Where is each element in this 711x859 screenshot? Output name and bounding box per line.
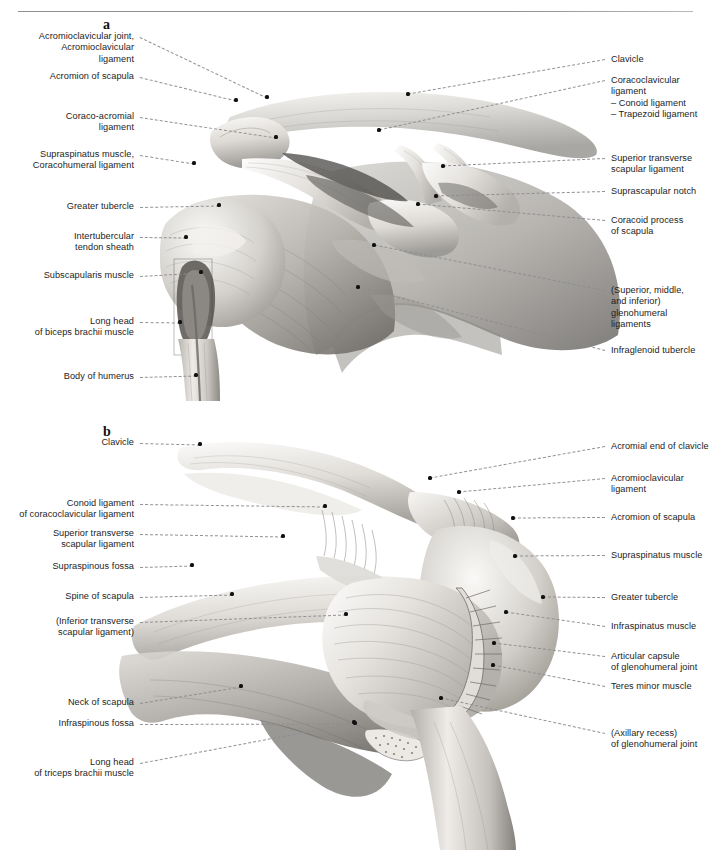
- leader-supraspinatus-muscle-b: [515, 555, 605, 557]
- label-neck-of-scapula: Neck of scapula: [48, 697, 134, 708]
- label-glenohumeral-ligaments: (Superior, middle, and inferior) glenohu…: [611, 285, 709, 331]
- label-long-head-of-biceps-brachii-muscle: Long head of biceps brachii muscle: [18, 316, 134, 339]
- label-superior-transverse-scapular-ligament: Superior transverse scapular ligament: [611, 153, 709, 176]
- leader-suprascapular-notch-anchor-dot: [434, 194, 437, 197]
- leader-greater-tubercle-b: [543, 596, 605, 597]
- leader-infraglenoid-tubercle-anchor-dot: [356, 285, 359, 288]
- label-greater-tubercle-b: Greater tubercle: [611, 592, 709, 603]
- leader-acromion-of-scapula-b-anchor-dot: [511, 516, 514, 519]
- label-acromioclavicular-joint-ligament: Acromioclavicular joint, Acromioclavicul…: [18, 31, 134, 65]
- label-intertubercular-tendon-sheath: Intertubercular tendon sheath: [44, 231, 134, 254]
- label-clavicle: Clavicle: [611, 54, 709, 65]
- label-axillary-recess-of-glenohumeral-joint: (Axillary recess) of glenohumeral joint: [611, 728, 709, 751]
- leader-clavicle-b-anchor-dot: [198, 442, 201, 445]
- leader-inferior-transverse-scapular-ligament-anchor-dot: [344, 612, 347, 615]
- leader-greater-tubercle-b-anchor-dot: [541, 595, 544, 598]
- leader-spine-of-scapula-anchor-dot: [230, 592, 233, 595]
- label-spine-of-scapula: Spine of scapula: [48, 591, 134, 602]
- label-coraco-acromial-ligament: Coraco-acromial ligament: [40, 111, 134, 134]
- label-supraspinatus-muscle-coracohumeral-ligament: Supraspinatus muscle, Coracohumeral liga…: [18, 149, 134, 172]
- leader-conoid-ligament-of-coracoclavicular-ligament-anchor-dot: [323, 504, 326, 507]
- leader-acromioclavicular-joint-ligament-anchor-dot: [265, 95, 268, 98]
- label-acromial-end-of-clavicle: Acromial end of clavicle: [611, 441, 709, 452]
- leader-infraspinatus-muscle-anchor-dot: [504, 610, 507, 613]
- leader-acromioclavicular-ligament-b-anchor-dot: [457, 490, 460, 493]
- leader-greater-tubercle-anchor-dot: [217, 203, 220, 206]
- panel-b-illustration: [110, 430, 610, 850]
- label-clavicle-b: Clavicle: [46, 437, 134, 448]
- label-acromioclavicular-ligament-b: Acromioclavicular ligament: [611, 473, 709, 496]
- leader-superior-transverse-scapular-ligament-b-anchor-dot: [281, 534, 284, 537]
- panel-a-illustration: [70, 55, 630, 405]
- label-subscapularis-muscle: Subscapularis muscle: [30, 270, 134, 281]
- leader-subscapularis-muscle-anchor-dot: [199, 270, 202, 273]
- leader-acromial-end-of-clavicle-anchor-dot: [428, 476, 431, 479]
- leader-supraspinatus-muscle-b-anchor-dot: [513, 554, 516, 557]
- leader-acromion-of-scapula-anchor-dot: [234, 98, 237, 101]
- label-acromion-of-scapula: Acromion of scapula: [32, 71, 134, 82]
- label-long-head-of-triceps-brachii-muscle: Long head of triceps brachii muscle: [14, 757, 134, 780]
- leader-intertubercular-tendon-sheath: [140, 237, 186, 238]
- leader-intertubercular-tendon-sheath-anchor-dot: [184, 235, 187, 238]
- leader-superior-transverse-scapular-ligament-anchor-dot: [441, 164, 444, 167]
- leader-acromion-of-scapula-b: [513, 517, 605, 519]
- label-inferior-transverse-scapular-ligament: (Inferior transverse scapular ligament): [32, 616, 134, 639]
- leader-long-head-of-triceps-brachii-muscle-anchor-dot: [352, 720, 355, 723]
- leader-body-of-humerus-anchor-dot: [194, 373, 197, 376]
- label-teres-minor-muscle: Teres minor muscle: [611, 681, 709, 692]
- leader-axillary-recess-of-glenohumeral-joint-anchor-dot: [439, 696, 442, 699]
- atlas-plate: aAcromioclavicular joint, Acromioclavicu…: [0, 0, 711, 859]
- header-rule: [18, 11, 693, 12]
- leader-clavicle-anchor-dot: [406, 92, 409, 95]
- leader-long-head-of-biceps-brachii-muscle: [140, 322, 180, 323]
- leader-neck-of-scapula-anchor-dot: [239, 684, 242, 687]
- running-head: [0, 0, 711, 5]
- leader-articular-capsule-of-glenohumeral-joint-anchor-dot: [492, 641, 495, 644]
- leader-teres-minor-muscle-anchor-dot: [491, 663, 494, 666]
- label-body-of-humerus: Body of humerus: [46, 371, 134, 382]
- label-suprascapular-notch: Suprascapular notch: [611, 186, 709, 197]
- leader-infraspinous-fossa: [140, 723, 355, 725]
- leader-coracoid-process-of-scapula-anchor-dot: [416, 202, 419, 205]
- leader-glenohumeral-ligaments-anchor-dot: [372, 243, 375, 246]
- label-conoid-ligament-of-coracoclavicular-ligament: Conoid ligament of coracoclavicular liga…: [10, 498, 134, 521]
- label-coracoid-process-of-scapula: Coracoid process of scapula: [611, 215, 709, 238]
- label-articular-capsule-of-glenohumeral-joint: Articular capsule of glenohumeral joint: [611, 651, 709, 674]
- leader-coraco-acromial-ligament-anchor-dot: [274, 135, 277, 138]
- leader-long-head-of-biceps-brachii-muscle-anchor-dot: [178, 320, 181, 323]
- label-infraglenoid-tubercle: Infraglenoid tubercle: [611, 345, 709, 356]
- label-supraspinatus-muscle-b: Supraspinatus muscle: [611, 550, 709, 561]
- label-infraspinatus-muscle: Infraspinatus muscle: [611, 621, 709, 632]
- leader-supraspinous-fossa-anchor-dot: [190, 563, 193, 566]
- label-coracoclavicular-ligament: Coracoclavicular ligament – Conoid ligam…: [611, 75, 709, 121]
- label-superior-transverse-scapular-ligament-b: Superior transverse scapular ligament: [34, 528, 134, 551]
- leader-supraspinatus-muscle-coracohumeral-ligament-anchor-dot: [192, 161, 195, 164]
- label-acromion-of-scapula-b: Acromion of scapula: [611, 512, 709, 523]
- label-supraspinous-fossa: Supraspinous fossa: [42, 561, 134, 572]
- label-infraspinous-fossa: Infraspinous fossa: [44, 718, 134, 729]
- leader-coracoclavicular-ligament-anchor-dot: [377, 128, 380, 131]
- label-greater-tubercle: Greater tubercle: [48, 201, 134, 212]
